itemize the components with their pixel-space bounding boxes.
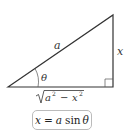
formula-box: x = a sin θ — [32, 110, 92, 130]
hypotenuse-label: a — [54, 39, 61, 52]
angle-label: θ — [41, 72, 47, 83]
adjacent-a-exp: 2 — [52, 90, 56, 97]
opposite-label: x — [117, 45, 124, 58]
formula-arg: θ — [83, 114, 89, 126]
adjacent-x-exp: 2 — [79, 90, 83, 97]
adjacent-a: a — [45, 92, 51, 103]
angle-arc — [35, 69, 39, 88]
right-angle-marker — [105, 79, 113, 87]
adjacent-label: a 2 − x 2 — [36, 90, 84, 103]
formula-lhs: x — [35, 114, 41, 126]
formula-equals: = — [44, 114, 53, 126]
adjacent-minus: − — [60, 92, 68, 103]
formula-coef: a — [56, 114, 62, 126]
adjacent-x: x — [72, 92, 78, 103]
formula-func: sin — [65, 114, 81, 126]
